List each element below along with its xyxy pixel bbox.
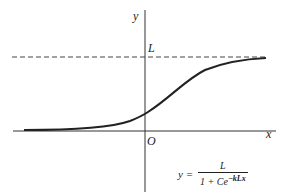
origin-label: O bbox=[147, 135, 156, 147]
formula-lhs: y = bbox=[178, 168, 193, 180]
y-axis-label: y bbox=[133, 10, 138, 22]
formula-exponent: −kLx bbox=[228, 174, 246, 183]
logistic-formula: y = L 1 + Ce−kLx bbox=[178, 160, 248, 187]
x-axis-label: x bbox=[266, 128, 271, 140]
formula-denominator: 1 + Ce−kLx bbox=[198, 172, 248, 187]
asymptote-label: L bbox=[148, 42, 155, 54]
formula-denominator-base: 1 + Ce bbox=[200, 176, 228, 187]
formula-fraction: L 1 + Ce−kLx bbox=[198, 160, 248, 187]
formula-numerator: L bbox=[218, 160, 228, 172]
